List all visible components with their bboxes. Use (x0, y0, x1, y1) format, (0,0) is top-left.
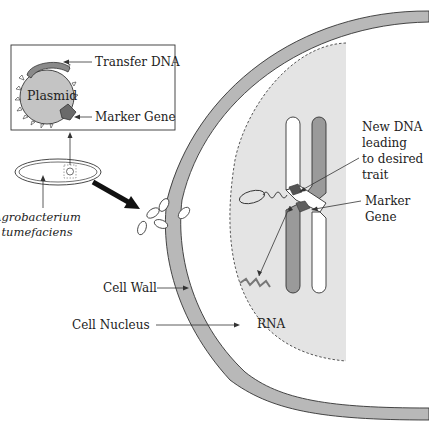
svg-text:Gene: Gene (365, 210, 397, 224)
agrobacterium-label-line2: tumefaciens (1, 225, 72, 239)
svg-text:to desired: to desired (362, 152, 423, 166)
rna-label: RNA (257, 317, 286, 331)
plasmid-label: Plasmid (27, 88, 77, 103)
cell-nucleus-label: Cell Nucleus (72, 318, 150, 332)
transfer-arrow (93, 182, 140, 209)
inset-marker-gene-label: Marker Gene (95, 110, 176, 124)
diagram-canvas: Plasmid Transfer DNA Marker Gene Agrobac… (0, 0, 429, 426)
cell-wall-label: Cell Wall (103, 281, 157, 295)
plasmid-inset: Plasmid Transfer DNA Marker Gene (11, 45, 180, 130)
svg-text:trait: trait (362, 168, 389, 182)
agrobacterium-label-line1: Agrobacterium (0, 210, 81, 224)
svg-text:New DNA: New DNA (362, 120, 423, 134)
agrobacterium-cell (15, 132, 101, 208)
svg-text:Marker: Marker (365, 194, 411, 208)
svg-text:leading: leading (362, 136, 407, 150)
bacteria-particles (136, 197, 192, 236)
transfer-dna-label: Transfer DNA (95, 55, 180, 69)
